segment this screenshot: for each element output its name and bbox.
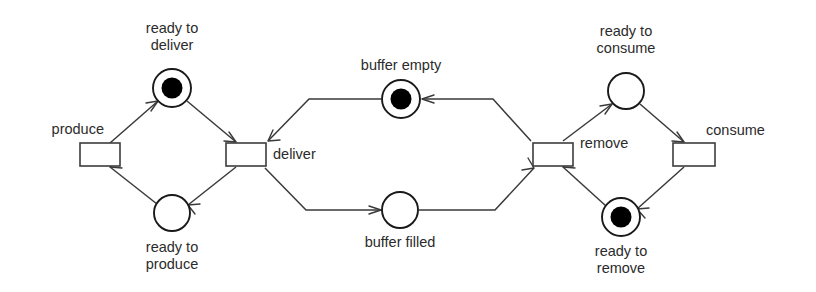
arc-consume-to-ready-to-remove bbox=[637, 167, 684, 218]
petri-net-diagram: ready to deliver ready to produce buffer… bbox=[0, 0, 816, 292]
place-label-buffer-filled: buffer filled bbox=[365, 234, 436, 250]
transition-box bbox=[226, 143, 266, 166]
place-label-ready-to-consume-line2: consume bbox=[597, 40, 656, 56]
arc-deliver-to-buffer-filled bbox=[265, 168, 381, 214]
place-ready-to-remove[interactable]: ready to remove bbox=[595, 198, 647, 276]
token-dot bbox=[611, 207, 632, 228]
place-label-ready-to-deliver-line1: ready to bbox=[146, 20, 198, 36]
arc-buffer-filled-to-remove bbox=[419, 158, 534, 210]
arc-ready-to-consume-to-consume bbox=[640, 104, 684, 142]
place-layer: ready to deliver ready to produce buffer… bbox=[146, 20, 656, 276]
transition-box bbox=[80, 143, 120, 166]
transition-label-deliver: deliver bbox=[273, 146, 316, 162]
transition-label-remove: remove bbox=[580, 135, 628, 151]
arc-produce-to-ready-to-deliver bbox=[110, 101, 158, 143]
transition-remove[interactable]: remove bbox=[533, 135, 628, 166]
transition-layer: produce deliver remove consume bbox=[52, 121, 765, 166]
petri-net-canvas: ready to deliver ready to produce buffer… bbox=[0, 0, 816, 292]
place-label-ready-to-remove-line2: remove bbox=[597, 260, 645, 276]
token-dot bbox=[162, 78, 183, 99]
arc-remove-to-buffer-empty bbox=[422, 95, 531, 141]
place-label-buffer-empty: buffer empty bbox=[361, 57, 442, 73]
place-label-ready-to-consume-line1: ready to bbox=[600, 23, 652, 39]
token-dot bbox=[391, 89, 412, 110]
transition-box bbox=[533, 143, 573, 166]
place-buffer-empty[interactable]: buffer empty bbox=[361, 57, 442, 118]
transition-box bbox=[673, 143, 715, 166]
place-ready-to-consume[interactable]: ready to consume bbox=[597, 23, 656, 109]
place-ready-to-deliver[interactable]: ready to deliver bbox=[146, 20, 198, 107]
place-label-ready-to-produce-line2: produce bbox=[146, 256, 198, 272]
transition-label-consume: consume bbox=[706, 122, 765, 138]
place-label-ready-to-deliver-line2: deliver bbox=[151, 37, 194, 53]
transition-produce[interactable]: produce bbox=[52, 121, 120, 166]
arc-ready-to-deliver-to-deliver bbox=[187, 101, 236, 142]
place-ready-to-produce[interactable]: ready to produce bbox=[146, 195, 198, 272]
arc-deliver-to-ready-to-produce bbox=[188, 167, 236, 214]
place-label-ready-to-remove-line1: ready to bbox=[595, 243, 647, 259]
arc-buffer-empty-to-deliver bbox=[268, 99, 381, 141]
transition-deliver[interactable]: deliver bbox=[226, 143, 316, 166]
place-label-ready-to-produce-line1: ready to bbox=[146, 239, 198, 255]
place-circle bbox=[154, 195, 190, 231]
place-circle bbox=[382, 192, 418, 228]
place-buffer-filled[interactable]: buffer filled bbox=[365, 192, 436, 250]
transition-label-produce: produce bbox=[52, 121, 104, 137]
place-circle bbox=[608, 73, 644, 109]
transition-consume[interactable]: consume bbox=[673, 122, 765, 166]
